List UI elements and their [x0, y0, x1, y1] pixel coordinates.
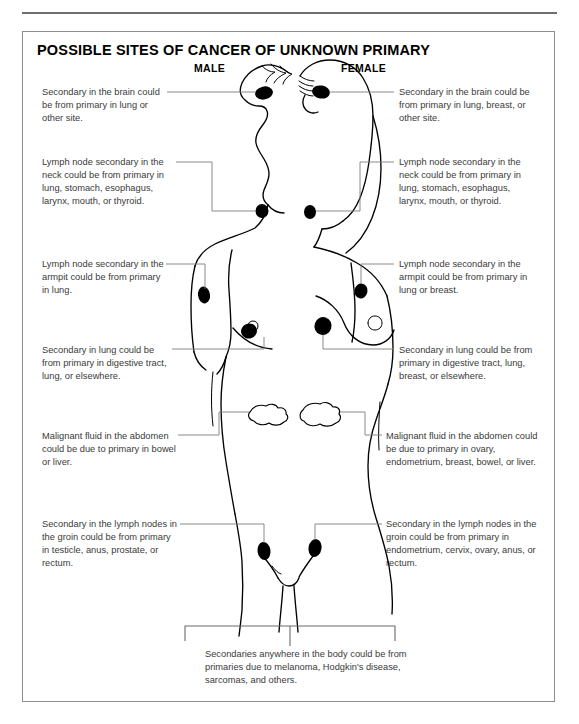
callout-right-brain: Secondary in the brain could be from pri… [399, 86, 539, 125]
callout-right-groin: Secondary in the lymph nodes in the groi… [386, 518, 538, 570]
figure-title: POSSIBLE SITES OF CANCER OF UNKNOWN PRIM… [37, 42, 430, 58]
callout-left-lung: Secondary in lung could be from primary … [42, 344, 170, 383]
diagram-stage: POSSIBLE SITES OF CANCER OF UNKNOWN PRIM… [0, 0, 579, 724]
callout-left-groin: Secondary in the lymph nodes in the groi… [42, 518, 178, 570]
callout-left-armpit: Lymph node secondary in the armpit could… [42, 258, 164, 297]
callout-right-neck: Lymph node secondary in the neck could b… [399, 156, 539, 208]
figure-caption: Secondaries anywhere in the body could b… [205, 648, 435, 687]
callout-right-armpit: Lymph node secondary in the armpit could… [399, 258, 539, 297]
callout-left-neck: Lymph node secondary in the neck could b… [42, 156, 174, 208]
page-top-rule [22, 12, 557, 14]
callout-left-abdomen: Malignant fluid in the abdomen could be … [42, 430, 176, 469]
label-female: FEMALE [341, 62, 386, 74]
callout-right-abdomen: Malignant fluid in the abdomen could be … [386, 430, 538, 469]
label-male: MALE [194, 62, 225, 74]
callout-right-lung: Secondary in lung could be from primary … [399, 344, 537, 383]
callout-left-brain: Secondary in the brain could be from pri… [42, 86, 164, 125]
